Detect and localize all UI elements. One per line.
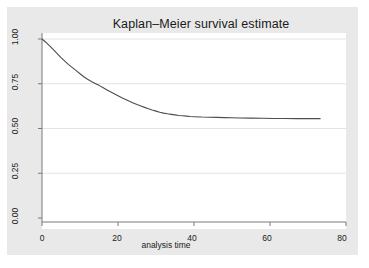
gridlines: [42, 39, 346, 173]
chart-svg: [0, 0, 369, 268]
axis-ticks: [38, 39, 346, 226]
figure: Kaplan–Meier survival estimate 1.00 0.75…: [0, 0, 369, 268]
survival-curve-line: [42, 39, 321, 119]
